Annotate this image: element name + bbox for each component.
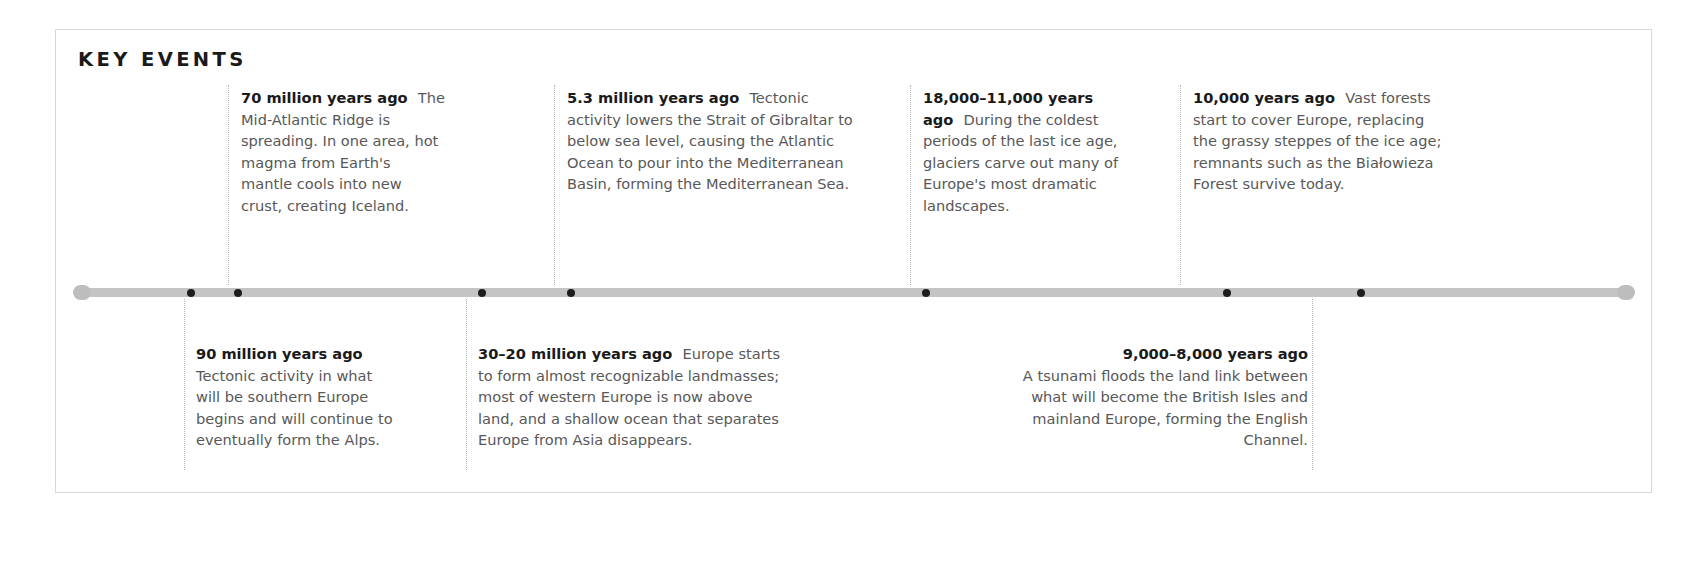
connector-event-30-20-million-years-ago xyxy=(466,299,467,470)
marker-18000-11000 xyxy=(922,289,930,297)
event-9000-8000-years-ago: 9,000–8,000 years agoA tsunami floods th… xyxy=(1011,343,1308,451)
event-date: 5.3 million years ago xyxy=(567,89,749,106)
marker-10000 xyxy=(1223,289,1231,297)
event-18000-11000-years-ago: 18,000–11,000 years agoDuring the coldes… xyxy=(923,87,1146,217)
event-date: 70 million years ago xyxy=(241,89,418,106)
connector-event-90-million-years-ago xyxy=(184,299,185,470)
event-date: 9,000–8,000 years ago xyxy=(1011,343,1308,365)
timeline-cap-left xyxy=(73,285,91,300)
marker-70-million xyxy=(234,289,242,297)
event-5-3-million-years-ago: 5.3 million years agoTectonic activity l… xyxy=(567,87,858,195)
connector-event-18000-11000-years-ago xyxy=(910,85,911,285)
key-events-panel: KEY EVENTS 70 million years agoThe Mid-A… xyxy=(55,29,1652,493)
connector-event-70-million-years-ago xyxy=(228,85,229,285)
page-title: KEY EVENTS xyxy=(78,48,247,71)
event-70-million-years-ago: 70 million years agoThe Mid-Atlantic Rid… xyxy=(241,87,446,217)
event-date: 90 million years ago xyxy=(196,343,396,365)
connector-event-10000-years-ago xyxy=(1180,85,1181,285)
connector-event-9000-8000-years-ago xyxy=(1312,299,1313,470)
event-description: A tsunami floods the land link between w… xyxy=(1023,367,1308,449)
timeline-axis xyxy=(76,285,1632,299)
marker-30-20-million xyxy=(478,289,486,297)
connector-event-5-3-million-years-ago xyxy=(554,85,555,285)
marker-5-3-million xyxy=(567,289,575,297)
timeline-bar xyxy=(76,288,1632,297)
marker-90-million xyxy=(187,289,195,297)
event-description: Tectonic activity in what will be southe… xyxy=(196,367,393,449)
event-30-20-million-years-ago: 30–20 million years agoEurope starts to … xyxy=(478,343,783,451)
timeline-cap-right xyxy=(1617,285,1635,300)
event-10000-years-ago: 10,000 years agoVast forests start to co… xyxy=(1193,87,1446,195)
event-date: 30–20 million years ago xyxy=(478,345,682,362)
marker-9000-8000 xyxy=(1357,289,1365,297)
event-date: 10,000 years ago xyxy=(1193,89,1345,106)
event-90-million-years-ago: 90 million years agoTectonic activity in… xyxy=(196,343,396,451)
event-description: The Mid-Atlantic Ridge is spreading. In … xyxy=(241,89,445,214)
